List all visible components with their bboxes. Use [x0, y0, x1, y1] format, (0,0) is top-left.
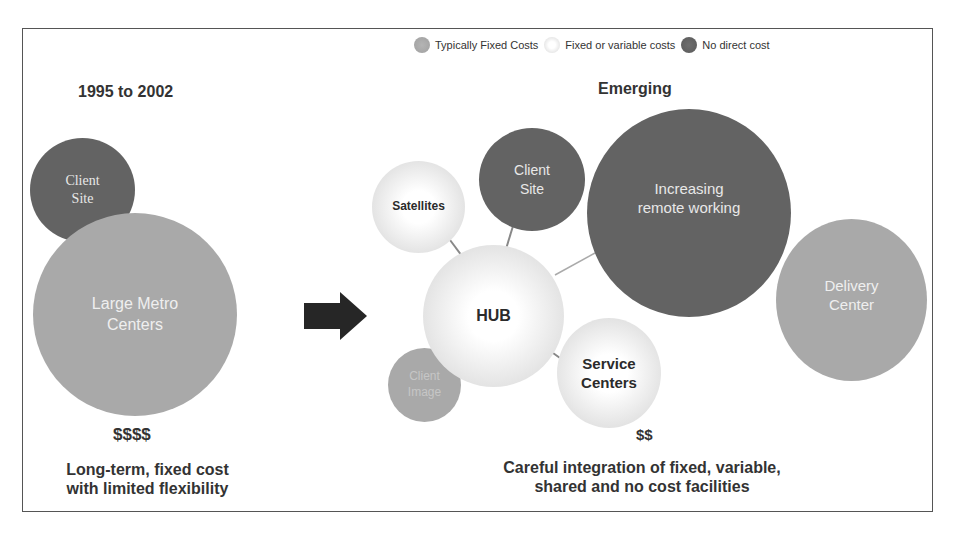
node-label: Site — [514, 180, 550, 198]
node-label: HUB — [476, 306, 511, 327]
node-label: Delivery — [824, 276, 878, 296]
node-hub: HUB — [423, 245, 564, 387]
node-client-site-right: Client Site — [479, 128, 585, 231]
node-label: Center — [824, 295, 878, 315]
node-label: Client — [514, 161, 550, 179]
node-delivery-center: Delivery Center — [776, 219, 927, 381]
node-label: remote working — [638, 198, 741, 218]
caption-line: shared and no cost facilities — [472, 477, 812, 496]
node-label: Service — [581, 354, 637, 374]
node-label: Image — [408, 385, 441, 401]
right-caption: Careful integration of fixed, variable, … — [472, 458, 812, 496]
node-increasing-remote-working: Increasing remote working — [587, 109, 791, 317]
node-label: Centers — [581, 373, 637, 393]
node-label: Client — [408, 369, 441, 385]
right-cost-indicator: $$ — [636, 426, 653, 443]
node-satellites: Satellites — [372, 161, 465, 253]
node-label: Satellites — [392, 199, 445, 215]
caption-line: Careful integration of fixed, variable, — [472, 458, 812, 477]
node-service-centers: Service Centers — [557, 318, 661, 428]
node-label: Increasing — [638, 179, 741, 199]
